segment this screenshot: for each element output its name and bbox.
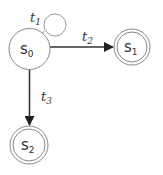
state-diagram: s0 s1 s2 t1 t2 t3: [0, 0, 163, 175]
transition-t2-label: t2: [82, 29, 93, 46]
transition-t1: [42, 14, 66, 36]
state-s0: s0: [9, 29, 50, 70]
transition-t3-label: t3: [41, 89, 52, 106]
transition-t1-label: t1: [30, 10, 41, 27]
state-s2: s2: [10, 126, 48, 164]
state-s1: s1: [114, 29, 150, 65]
